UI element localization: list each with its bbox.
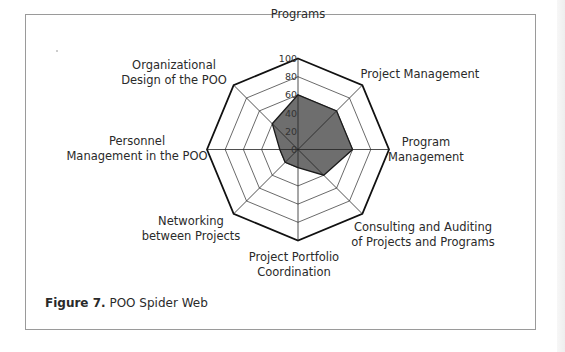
category-label: OrganizationalDesign of the POO bbox=[121, 58, 227, 87]
figure-title: POO Spider Web bbox=[106, 296, 208, 310]
figure-caption: Figure 7. POO Spider Web bbox=[45, 296, 208, 310]
radar-axes bbox=[207, 59, 389, 241]
tick-label: 20 bbox=[285, 126, 297, 137]
category-label: PersonnelManagement in the POO bbox=[66, 134, 207, 163]
category-label: Programs bbox=[271, 7, 326, 21]
category-label: Project Management bbox=[361, 67, 480, 81]
category-label: Consulting and Auditingof Projects and P… bbox=[351, 220, 495, 249]
figure-number: Figure 7. bbox=[45, 296, 106, 310]
category-label: Project PortfolioCoordination bbox=[249, 250, 339, 279]
tick-label: 80 bbox=[285, 71, 297, 82]
category-label: Networkingbetween Projects bbox=[142, 214, 241, 243]
tick-label: 40 bbox=[285, 108, 297, 119]
tick-label: 60 bbox=[285, 89, 297, 100]
category-label: ProgramManagement bbox=[388, 135, 464, 164]
tick-label: 0 bbox=[291, 144, 297, 155]
tick-label: 100 bbox=[279, 53, 297, 64]
